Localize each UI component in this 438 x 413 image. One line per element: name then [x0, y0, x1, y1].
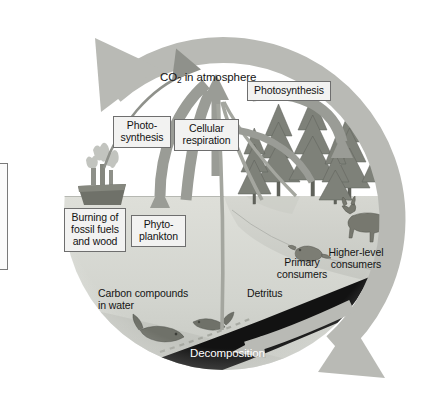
label-phytoplankton: Phyto- plankton: [131, 215, 186, 247]
label-carbon-compounds: Carbon compounds in water: [98, 288, 208, 312]
arrow-photosynthesis-ocean-head: [150, 186, 170, 208]
carbon-cycle-diagram: CO2 in atmosphere Photosynthesis Photo- …: [0, 0, 438, 413]
label-photosynthesis-forest: Photosynthesis: [247, 81, 331, 101]
label-co2-atmosphere: CO2 in atmosphere: [160, 58, 256, 85]
label-cellular-respiration: Cellular respiration: [174, 119, 239, 151]
label-decomposition: Decomposition: [190, 347, 265, 360]
label-co2-text: CO2 in atmosphere: [160, 71, 256, 83]
label-photosynthesis-ocean: Photo- synthesis: [113, 116, 171, 148]
label-burning-fossil-fuels: Burning of fossil fuels and wood: [64, 208, 126, 252]
cropped-edge-box: [0, 163, 8, 270]
label-higher-level-consumers: Higher-level consumers: [318, 247, 394, 271]
arrow-photosynthesis-forest-head: [331, 134, 353, 158]
label-detritus: Detritus: [247, 288, 282, 300]
